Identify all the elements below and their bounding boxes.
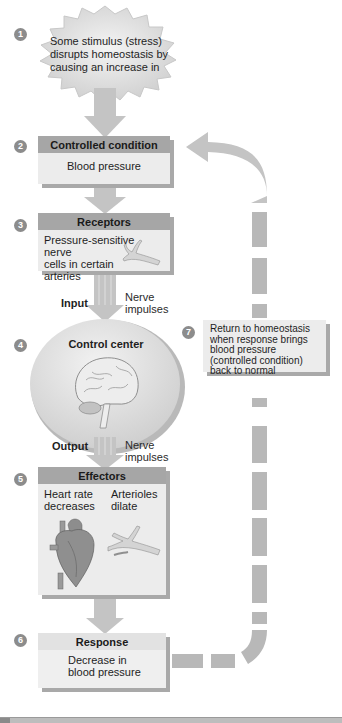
- return-line: Return to homeostasis: [210, 324, 319, 335]
- step-2-badge: 2: [14, 140, 27, 153]
- effector-heart-line: decreases: [44, 500, 95, 512]
- response-title: Response: [38, 633, 166, 650]
- output-signal: Nerve impulses: [125, 439, 168, 463]
- step-1-badge: 1: [14, 28, 27, 41]
- arrow-effectors-to-response: [86, 596, 124, 634]
- stimulus-text: Some stimulus (stress) disrupts homeosta…: [50, 35, 172, 74]
- controlled-condition-title: Controlled condition: [38, 136, 170, 153]
- effectors-box: Effectors Heart rate decreases Arteriole…: [38, 467, 166, 595]
- response-text: Decrease in blood pressure: [38, 650, 166, 678]
- return-line: blood pressure: [210, 345, 319, 356]
- output-label: Output: [52, 440, 88, 452]
- input-signal-line: impulses: [125, 303, 168, 315]
- response-box: Response Decrease in blood pressure: [38, 633, 166, 688]
- effector-heart-text: Heart rate decreases: [44, 488, 95, 512]
- input-signal: Nerve impulses: [125, 291, 168, 315]
- effectors-title: Effectors: [38, 467, 166, 484]
- step-3-badge: 3: [14, 219, 27, 232]
- effector-arterioles-text: Arterioles dilate: [111, 488, 157, 512]
- controlled-condition-text: Blood pressure: [38, 153, 170, 175]
- heart-icon: [48, 517, 108, 592]
- return-text: Return to homeostasis when response brin…: [203, 320, 326, 381]
- response-line: Decrease in: [68, 654, 166, 666]
- footer-bar: [0, 717, 342, 723]
- input-signal-line: Nerve: [125, 291, 168, 303]
- arterioles-icon: [106, 525, 166, 565]
- control-center-title: Control center: [66, 338, 146, 350]
- controlled-condition-box: Controlled condition Blood pressure: [38, 136, 170, 184]
- response-line: blood pressure: [68, 666, 166, 678]
- receptors-title: Receptors: [38, 213, 170, 230]
- effector-arterioles-line: dilate: [111, 500, 157, 512]
- return-to-homeostasis-box: Return to homeostasis when response brin…: [203, 320, 326, 372]
- arrow-condition-to-receptors: [84, 185, 126, 214]
- effector-heart-line: Heart rate: [44, 488, 95, 500]
- step-4-badge: 4: [14, 339, 27, 352]
- effector-arterioles-line: Arterioles: [111, 488, 157, 500]
- footer-tab: [0, 718, 10, 723]
- receptors-box: Receptors Pressure-sensitive nerve cells…: [38, 213, 170, 271]
- step-5-badge: 5: [14, 473, 27, 486]
- receptors-line: arteries: [44, 270, 164, 282]
- artery-icon: [120, 239, 170, 269]
- input-label: Input: [61, 297, 88, 309]
- step-6-badge: 6: [14, 634, 27, 647]
- feedback-loop: [172, 132, 267, 668]
- step-7-badge: 7: [182, 326, 195, 339]
- output-signal-line: impulses: [125, 451, 168, 463]
- output-signal-line: Nerve: [125, 439, 168, 451]
- return-line: back to normal: [210, 366, 319, 377]
